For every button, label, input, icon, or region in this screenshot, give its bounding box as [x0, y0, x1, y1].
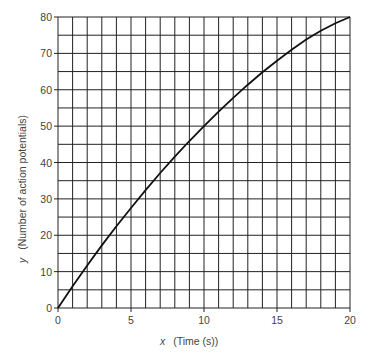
- x-tick-label: 0: [55, 314, 61, 326]
- x-tick-label: 15: [271, 314, 283, 326]
- y-axis-label: y (Number of action potentials): [16, 115, 28, 264]
- y-tick-label: 30: [40, 193, 52, 205]
- y-tick-label: 70: [40, 47, 52, 59]
- y-tick-label: 60: [40, 84, 52, 96]
- line-chart: 0102030405060708005101520 x (Time (s)) y…: [0, 0, 375, 359]
- x-tick-label: 5: [128, 314, 134, 326]
- y-tick-label: 20: [40, 229, 52, 241]
- y-tick-label: 10: [40, 266, 52, 278]
- y-tick-label: 50: [40, 120, 52, 132]
- y-tick-label: 40: [40, 157, 52, 169]
- grid-lines: [54, 17, 350, 312]
- x-tick-label: 20: [344, 314, 356, 326]
- y-tick-label: 80: [40, 11, 52, 23]
- x-axis-label: x (Time (s)): [159, 335, 218, 347]
- x-tick-label: 10: [198, 314, 210, 326]
- y-tick-label: 0: [46, 302, 52, 314]
